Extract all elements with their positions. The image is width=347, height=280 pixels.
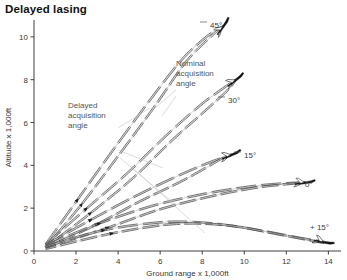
- y-tick-label: 4: [24, 161, 29, 170]
- x-axis-title: Ground range x 1,000ft: [146, 269, 229, 278]
- aircraft-icon: [219, 147, 242, 162]
- chart-canvas: 024681002468101214Ground range x 1,000ft…: [0, 0, 347, 280]
- trajectory--15-deg-delayed: [45, 223, 324, 250]
- nominal-acquisition-annotation: Nominalacquisitionangle: [176, 59, 214, 88]
- angle-label: 15°: [244, 151, 256, 160]
- delayed-acquisition-annotation-line: acquisition: [68, 111, 106, 120]
- x-tick-label: 6: [158, 257, 163, 266]
- x-tick-label: 10: [240, 257, 249, 266]
- delayed-acquisition-annotation-line: Delayed: [68, 101, 97, 110]
- chart-root: Delayed lasing 024681002468101214Ground …: [0, 0, 347, 280]
- angle-label: + 15°: [310, 223, 329, 232]
- x-tick-label: 12: [282, 257, 291, 266]
- y-tick-label: 6: [24, 119, 29, 128]
- aircraft-icon: [312, 234, 335, 248]
- x-tick-label: 4: [116, 257, 121, 266]
- nominal-acquisition-annotation-line: acquisition: [176, 69, 214, 78]
- angle-label: 30°: [228, 96, 240, 105]
- delayed-acquisition-annotation: Delayedacquisitionangle: [68, 101, 106, 130]
- y-tick-label: 2: [24, 204, 29, 213]
- annotation-leader-line: [118, 150, 163, 168]
- y-tick-label: 10: [19, 33, 28, 42]
- angle-label: 45°: [210, 21, 222, 30]
- y-tick-label: 8: [24, 76, 29, 85]
- y-axis-title: Altitude x 1,000ft: [4, 107, 13, 167]
- annotations-group: DelayedacquisitionangleNominalacquisitio…: [68, 59, 214, 130]
- nominal-acquisition-annotation-line: angle: [176, 79, 196, 88]
- x-tick-label: 8: [200, 257, 205, 266]
- y-tick-label: 0: [24, 247, 29, 256]
- aircraft-markers-group: [212, 15, 335, 248]
- angle-labels-group: 45°30°15°0°+ 15°: [200, 21, 329, 232]
- x-tick-label: 14: [324, 257, 333, 266]
- nominal-acquisition-annotation-line: Nominal: [176, 59, 206, 68]
- annotation-leader-line: [162, 96, 176, 116]
- x-tick-label: 2: [74, 257, 79, 266]
- angle-label: 0°: [305, 180, 313, 189]
- x-tick-label: 0: [32, 257, 37, 266]
- delayed-acquisition-annotation-line: angle: [68, 121, 88, 130]
